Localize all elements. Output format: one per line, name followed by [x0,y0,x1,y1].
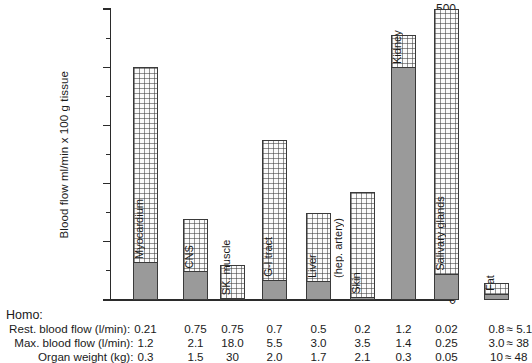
table-header-homo: Homo: [6,308,43,322]
bar-liver: Liver(hep. artery) [306,213,331,300]
table-row: Rest. blood flow (l/min):0.210.750.750.7… [0,322,456,336]
table-row: Organ weight (kg):0.31.5302.01.72.10.30.… [0,350,456,363]
bar-segment-rest [306,281,331,300]
bar-segment-rest [133,262,158,300]
table-cell: 0.3 [137,350,153,363]
table-cell: 1.2 [137,336,153,349]
bar-segment-rest [262,280,287,300]
table-cell: 1.2 [395,322,411,335]
bar-segment-rest [391,67,416,300]
y-axis-title-text: Blood flow ml/min x 100 g tissue [58,71,70,238]
bar-segment-max [350,192,375,300]
table-cell: 3.5 [354,336,370,349]
table-cell: 10 [490,350,503,363]
table-cell-approx-total: ≈ 48 [505,350,527,363]
table-cell: 5.5 [266,336,282,349]
bar-segment-max [262,140,287,300]
table-cell: 0.02 [435,322,458,335]
table-cell: 18.0 [221,336,244,349]
table-row: Max. blood flow (l/min):1.22.118.05.53.0… [0,336,456,350]
table-cell-approx-total: ≈ 5.1 [507,322,532,335]
table-cell-approx-total: ≈ 38 [507,336,529,349]
table-cell: 3.0 [310,336,326,349]
organ-data-table: Homo: Rest. blood flow (l/min):0.210.750… [0,303,456,363]
table-cell: 2.1 [187,336,203,349]
table-cell: 2.1 [354,350,370,363]
table-cell: 0.75 [184,322,207,335]
bar-segment-max [220,265,245,300]
table-cell: 1.5 [187,350,203,363]
bar-fat: Fat [484,283,509,300]
table-cell: 0.75 [221,322,244,335]
table-cell: 0.25 [435,336,458,349]
bar-myocardium: Myocardium [133,67,158,300]
blood-flow-bar-chart: Blood flow ml/min x 100 g tissue 0100200… [0,0,456,305]
bar-segment-max [434,9,459,300]
bar-segment-rest [220,298,245,300]
table-cell: 0.05 [435,350,458,363]
table-cell: 0.5 [310,322,326,335]
table-cell: 0.7 [266,322,282,335]
bar-kidney: Kidney [391,35,416,300]
table-row-label: Organ weight (kg): [0,350,133,363]
table-row-label: Rest. blood flow (l/min): [0,322,130,335]
table-cell: 0.8 [488,322,504,335]
table-cell: 0.2 [354,322,370,335]
bar-salivary-glands: Salivary glands [434,9,459,300]
table-cell: 30 [226,350,239,363]
bar-group: MyocardiumCNSSK. muscleG-I tractLiver(he… [110,9,454,300]
table-cell: 0.21 [134,322,157,335]
table-cell: 2.0 [266,350,282,363]
table-cell: 0.3 [395,350,411,363]
bar-sk-muscle: SK. muscle [220,265,245,300]
table-cell: 1.4 [395,336,411,349]
bar-segment-rest [484,294,509,300]
bar-cns: CNS [183,219,208,300]
bar-g-i-tract: G-I tract [262,140,287,300]
table-row-label: Max. blood flow (l/min): [0,336,133,349]
table-cell: 1.7 [310,350,326,363]
y-axis-title: Blood flow ml/min x 100 g tissue [54,9,74,300]
bar-segment-rest [350,297,375,300]
bar-segment-rest [183,271,208,300]
table-cell: 3.0 [488,336,504,349]
bar-sublabel-4: (hep. artery) [332,218,344,278]
bar-segment-rest [434,274,459,300]
bar-skin: Skin [350,192,375,300]
